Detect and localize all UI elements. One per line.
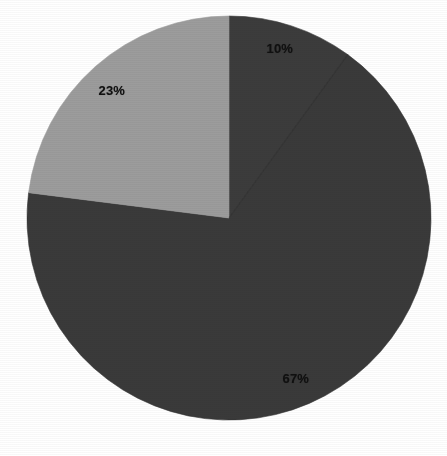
pie-chart-figure: 10% 23% 67%: [0, 0, 447, 456]
pie-chart-canvas: [0, 0, 447, 456]
pie-label-23-percent: 23%: [99, 84, 126, 97]
pie-label-67-percent: 67%: [283, 372, 310, 385]
pie-chart-svg: [0, 0, 447, 456]
pie-label-10-percent: 10%: [267, 42, 294, 55]
